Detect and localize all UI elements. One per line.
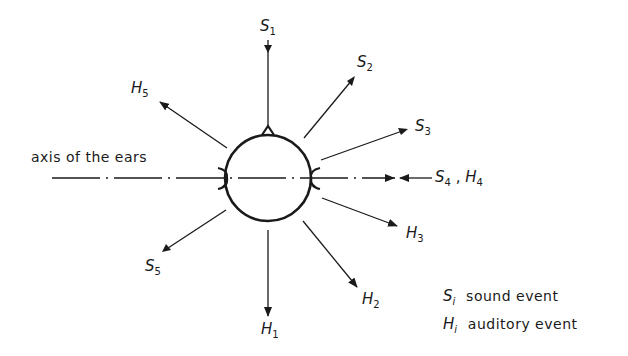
label-h5: H5 bbox=[131, 81, 149, 99]
arrowhead-s4 bbox=[399, 174, 409, 182]
legend-sound-event: Si sound event bbox=[443, 289, 558, 307]
nose-icon bbox=[262, 126, 274, 135]
arrowhead-s5 bbox=[162, 244, 171, 252]
axis-label: axis of the ears bbox=[31, 150, 147, 164]
label-s5: S5 bbox=[145, 259, 161, 277]
arrow-h5 bbox=[160, 102, 227, 148]
label-h3: H3 bbox=[406, 226, 424, 244]
arrowhead-s3 bbox=[398, 128, 408, 135]
legend-auditory-event: Hi auditory event bbox=[443, 317, 578, 335]
arrowhead-s1 bbox=[264, 45, 272, 53]
arrow-h2 bbox=[303, 221, 357, 287]
label-h1: H1 bbox=[261, 322, 279, 340]
arrow-s2 bbox=[304, 80, 352, 138]
arrow-h3 bbox=[322, 198, 397, 226]
label-s1: S1 bbox=[260, 19, 276, 37]
arrowhead-h4 bbox=[385, 174, 395, 182]
arrow-s5 bbox=[165, 210, 226, 250]
label-h2: H2 bbox=[362, 292, 380, 310]
label-s4-h4: S4 , H4 bbox=[435, 170, 483, 188]
label-s3: S3 bbox=[415, 119, 431, 137]
label-s2: S2 bbox=[357, 55, 373, 73]
arrow-s3 bbox=[321, 130, 405, 160]
